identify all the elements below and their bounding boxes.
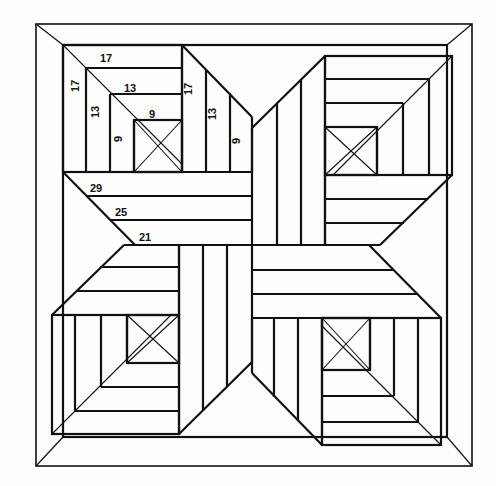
label-strip-vertical-2: 13 [206, 108, 218, 120]
label-ring1-horizontal: 17 [100, 52, 112, 64]
horizontal-strips-br [252, 245, 441, 318]
quadrant-top-right [252, 56, 452, 245]
center-square-x-bl [52, 315, 179, 434]
label-ring2-horizontal: 13 [124, 82, 136, 94]
diagram-canvas: 17 17 13 13 9 9 17 13 9 29 25 21 [0, 0, 496, 486]
label-strip-vertical-3: 9 [230, 138, 242, 144]
label-strip-horizontal-1: 29 [90, 182, 102, 194]
center-square-x-tr [325, 56, 452, 175]
label-ring3-vertical: 9 [112, 136, 124, 142]
label-ring3-horizontal: 9 [149, 108, 155, 120]
quilt-block-drawing: 17 17 13 13 9 9 17 13 9 29 25 21 [0, 0, 496, 486]
horizontal-strips-bl [179, 245, 252, 434]
quadrant-bottom-left [52, 245, 252, 434]
label-strip-horizontal-2: 25 [115, 206, 127, 218]
horizontal-strips-tr [252, 56, 325, 245]
center-square-x-br [322, 318, 441, 445]
vertical-strips-bl [52, 245, 179, 315]
label-ring2-vertical: 13 [89, 106, 101, 118]
label-ring1-vertical: 17 [69, 80, 81, 92]
vertical-strips-br [252, 318, 322, 445]
label-strip-vertical-1: 17 [182, 83, 194, 95]
center-square-x-tl [134, 120, 182, 172]
vertical-strips-tr [325, 175, 452, 245]
label-strip-horizontal-3: 21 [139, 231, 151, 243]
quadrant-bottom-right [252, 245, 441, 445]
block-diagonal-tl [63, 45, 182, 164]
